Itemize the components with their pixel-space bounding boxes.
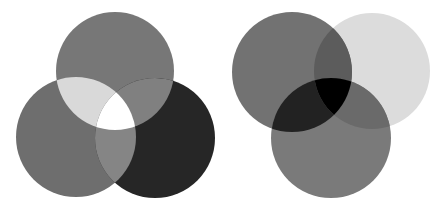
left-diagram xyxy=(16,12,215,198)
right-diagram xyxy=(232,12,430,198)
color-mixing-diagrams xyxy=(0,0,447,209)
